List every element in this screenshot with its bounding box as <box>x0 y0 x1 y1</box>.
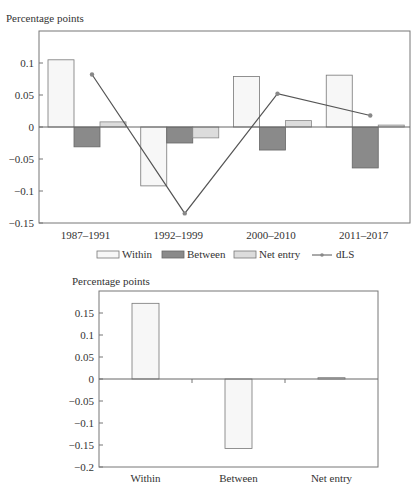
legend-label-between: Between <box>187 248 226 260</box>
legend-swatch-within <box>97 251 119 258</box>
bottom-y-tick-label: 0.15 <box>75 307 95 319</box>
bar-within-1987-1991 <box>48 60 74 127</box>
figure: Percentage points −0.15−0.1−0.0500.050.1… <box>0 0 420 493</box>
top-y-tick-label: −0.15 <box>9 217 35 229</box>
bottom-x-label-between: Between <box>219 472 258 484</box>
legend-marker-dls <box>320 253 324 257</box>
bottom-chart: Percentage points −0.2−0.15−0.1−0.0500.0… <box>69 275 378 484</box>
top-x-label-2000-2010: 2000–2010 <box>246 229 296 241</box>
bar-between-2000-2010 <box>260 127 286 150</box>
legend-label-dls: dLS <box>336 248 354 260</box>
bottom-y-ticks: −0.2−0.15−0.1−0.0500.050.10.15 <box>69 307 103 473</box>
top-x-labels: 1987–19911992–19992000–20102011–2017 <box>61 229 389 241</box>
legend: Within Between Net entry dLS <box>97 248 354 260</box>
top-y-axis-label: Percentage points <box>6 12 84 24</box>
dls-point-1987-1991 <box>90 72 94 76</box>
bottom-y-tick-label: 0.05 <box>75 351 95 363</box>
bottom-y-tick-label: −0.15 <box>69 439 95 451</box>
top-bars <box>48 60 404 186</box>
top-y-tick-label: 0 <box>29 121 35 133</box>
bar-between-1992-1999 <box>167 127 193 143</box>
bottom-x-label-within: Within <box>130 472 161 484</box>
top-chart: Percentage points −0.15−0.1−0.0500.050.1… <box>6 12 410 260</box>
bottom-bars <box>132 303 345 448</box>
bar-within-2011-2017 <box>326 75 352 127</box>
bottom-bar-within <box>132 303 159 379</box>
bottom-y-axis-label: Percentage points <box>72 275 150 287</box>
bottom-x-label-net-entry: Net entry <box>311 472 353 484</box>
bar-net-entry-1987-1991 <box>100 122 126 127</box>
bar-within-1992-1999 <box>141 127 167 186</box>
bottom-y-tick-label: −0.1 <box>74 417 94 429</box>
dls-point-2000-2010 <box>275 92 279 96</box>
top-y-tick-label: −0.1 <box>14 185 34 197</box>
top-x-label-2011-2017: 2011–2017 <box>339 229 389 241</box>
bottom-y-tick-label: −0.05 <box>69 395 95 407</box>
bar-between-2011-2017 <box>352 127 378 168</box>
top-x-label-1992-1999: 1992–1999 <box>153 229 203 241</box>
dls-point-2011-2017 <box>368 113 372 117</box>
bar-within-2000-2010 <box>234 76 260 127</box>
legend-swatch-between <box>162 251 184 258</box>
legend-label-within: Within <box>122 248 153 260</box>
bar-net-entry-1992-1999 <box>193 127 219 138</box>
top-y-tick-label: 0.1 <box>20 57 34 69</box>
bottom-y-tick-label: 0 <box>89 373 95 385</box>
bottom-bar-between <box>225 379 252 449</box>
bar-between-1987-1991 <box>74 127 100 147</box>
top-y-tick-label: 0.05 <box>15 89 35 101</box>
top-y-ticks: −0.15−0.1−0.0500.050.1 <box>9 57 43 229</box>
dls-point-1992-1999 <box>183 211 187 215</box>
bar-net-entry-2000-2010 <box>286 121 312 127</box>
bottom-y-tick-label: −0.2 <box>74 461 94 473</box>
bottom-y-tick-label: 0.1 <box>80 329 94 341</box>
legend-label-net-entry: Net entry <box>259 248 301 260</box>
legend-swatch-net-entry <box>234 251 256 258</box>
bottom-x-labels: WithinBetweenNet entry <box>130 472 352 484</box>
top-y-tick-label: −0.05 <box>9 153 35 165</box>
top-x-label-1987-1991: 1987–1991 <box>61 229 111 241</box>
